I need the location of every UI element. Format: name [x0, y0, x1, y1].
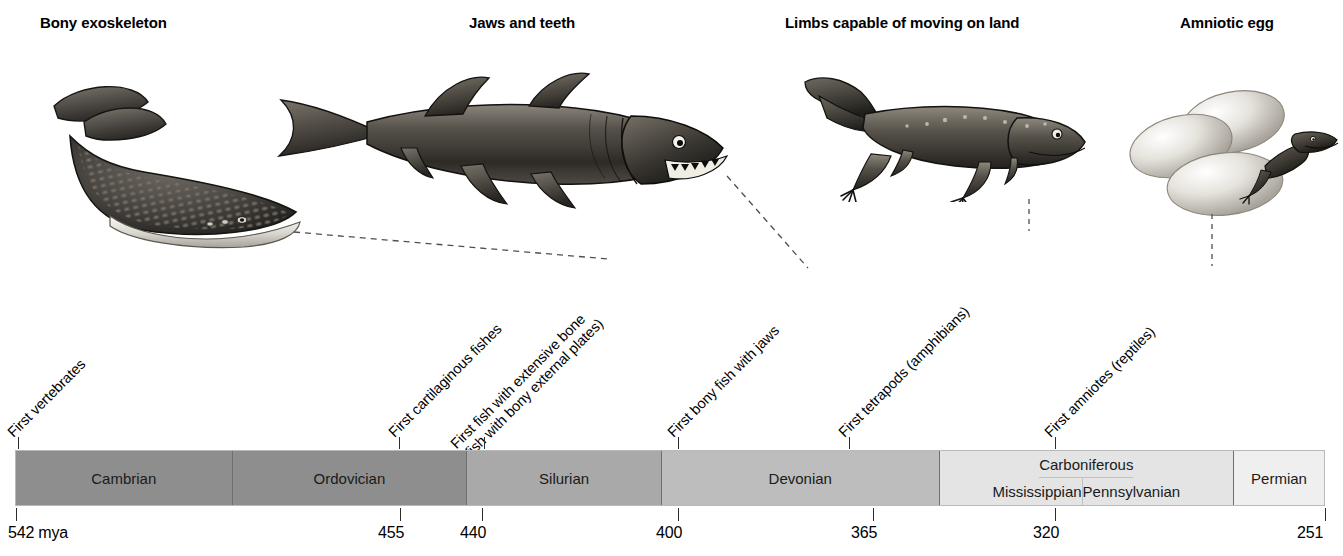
event-tick-first-bone-plates	[484, 437, 485, 449]
event-tick-first-amniotes	[1055, 437, 1056, 449]
geologic-timescale-bar: Cambrian Ordovician Silurian Devonian Ca…	[15, 450, 1325, 506]
period-carboniferous[interactable]: Carboniferous Mississippian Pennsylvania…	[940, 451, 1235, 505]
epoch-pennsylvanian[interactable]: Pennsylvanian	[1083, 478, 1181, 505]
period-devonian[interactable]: Devonian	[662, 451, 940, 505]
axis-tick-251	[1325, 508, 1326, 521]
period-label: Permian	[1251, 470, 1307, 487]
period-label: Ordovician	[314, 470, 386, 487]
leader-path-bony-plates	[294, 232, 608, 259]
period-carboniferous-subdivisions: Mississippian Pennsylvanian	[992, 478, 1180, 505]
figure-canvas: Bony exoskeleton Jaws and teeth Limbs ca…	[0, 0, 1343, 556]
epoch-label: Mississippian	[992, 483, 1081, 500]
axis-label-542: 542 mya	[8, 524, 68, 542]
period-label: Carboniferous	[1039, 456, 1133, 473]
event-tick-first-cartilaginous	[399, 437, 400, 449]
axis-label-455: 455	[378, 524, 404, 542]
heading-limbs-on-land: Limbs capable of moving on land	[785, 14, 1019, 31]
period-label: Devonian	[769, 470, 832, 487]
period-label: Silurian	[539, 470, 589, 487]
axis-tick-455	[400, 508, 401, 521]
axis-tick-365	[873, 508, 874, 521]
heading-amniotic-egg: Amniotic egg	[1180, 14, 1274, 31]
epoch-label: Pennsylvanian	[1083, 483, 1181, 500]
event-tick-first-vertebrates	[18, 437, 19, 449]
axis-label-440: 440	[460, 524, 486, 542]
period-permian[interactable]: Permian	[1234, 451, 1324, 505]
period-carboniferous-title-row: Carboniferous	[1039, 451, 1133, 478]
heading-bony-exoskeleton: Bony exoskeleton	[40, 14, 167, 31]
event-tick-first-bony-fish-jaws	[678, 437, 679, 449]
event-tick-first-tetrapods	[849, 437, 850, 449]
axis-label-400: 400	[656, 524, 682, 542]
leader-path-bony-fish-jaws	[727, 176, 808, 268]
axis-tick-320	[1055, 508, 1056, 521]
epoch-mississippian[interactable]: Mississippian	[992, 478, 1082, 505]
heading-jaws-and-teeth: Jaws and teeth	[469, 14, 575, 31]
axis-label-251: 251	[1297, 524, 1323, 542]
period-label: Cambrian	[91, 470, 156, 487]
axis-tick-542	[16, 508, 17, 521]
axis-tick-440	[482, 508, 483, 521]
axis-label-320: 320	[1033, 524, 1059, 542]
period-ordovician[interactable]: Ordovician	[233, 451, 468, 505]
period-silurian[interactable]: Silurian	[467, 451, 662, 505]
axis-tick-400	[678, 508, 679, 521]
period-cambrian[interactable]: Cambrian	[16, 451, 233, 505]
axis-label-365: 365	[851, 524, 877, 542]
